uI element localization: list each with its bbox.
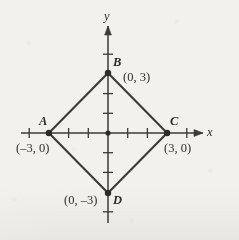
coord-label-c: (3, 0) xyxy=(164,142,191,155)
point-marker-c xyxy=(164,130,170,136)
point-marker-b xyxy=(105,70,111,76)
coord-label-d: (0, –3) xyxy=(64,194,97,207)
point-marker-d xyxy=(105,190,111,196)
y-axis-label: y xyxy=(104,10,110,23)
coord-label-b: (0, 3) xyxy=(123,71,150,84)
point-label-c: C xyxy=(170,115,178,128)
origin-marker xyxy=(105,130,110,135)
x-axis-arrowhead xyxy=(194,130,203,137)
point-label-a: A xyxy=(39,115,47,128)
coordinate-plane-figure: A (–3, 0) B (0, 3) C (3, 0) D (0, –3) y … xyxy=(0,0,239,240)
y-axis-arrowhead xyxy=(105,26,112,35)
point-label-b: B xyxy=(113,56,121,69)
point-label-d: D xyxy=(113,194,122,207)
point-marker-a xyxy=(46,130,52,136)
x-axis-label: x xyxy=(207,126,213,139)
coord-label-a: (–3, 0) xyxy=(16,142,49,155)
